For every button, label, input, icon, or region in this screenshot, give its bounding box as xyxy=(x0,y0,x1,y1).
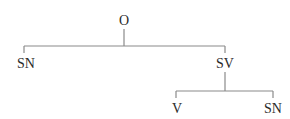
node-sn-right: SN xyxy=(264,101,282,116)
node-v: V xyxy=(172,101,182,116)
root-branch xyxy=(24,29,225,53)
sv-branch xyxy=(176,72,273,98)
node-sn-left: SN xyxy=(17,56,35,71)
node-o: O xyxy=(119,13,129,28)
node-sv: SV xyxy=(216,56,234,71)
syntax-tree-diagram: O SN SV V SN xyxy=(0,0,290,119)
